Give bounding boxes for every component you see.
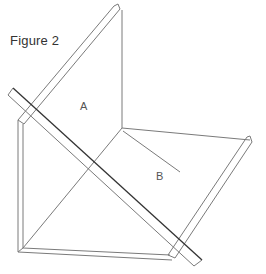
panel-b — [18, 128, 250, 260]
panel-a-label: A — [80, 100, 87, 112]
figure-title: Figure 2 — [10, 33, 59, 48]
diagonal-rod — [8, 88, 202, 266]
panel-b-label: B — [156, 170, 163, 182]
